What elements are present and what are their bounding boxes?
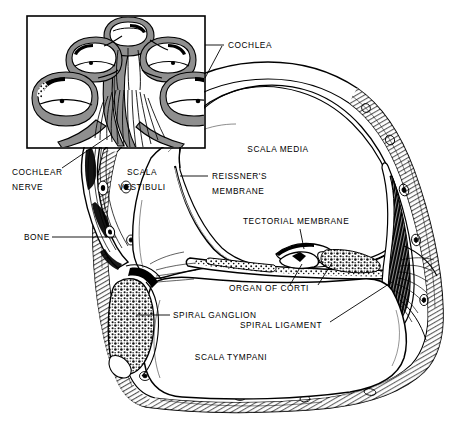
label-scala-vestibuli-line2: VESTIBULI <box>118 182 165 192</box>
label-tectorial-membrane: TECTORIAL MEMBRANE <box>243 216 349 226</box>
label-cochlea: COCHLEA <box>228 40 272 50</box>
label-scala-vestibuli-line1: SCALA <box>127 167 157 177</box>
label-organ-of-corti: ORGAN OF CORTI <box>229 283 309 293</box>
cochlea-diagram-figure: COCHLEA COCHLEAR NERVE SCALA VESTIBULI S… <box>0 0 460 426</box>
label-scala-media: SCALA MEDIA <box>247 144 308 154</box>
label-cochlear-nerve-line1: COCHLEAR <box>12 167 63 177</box>
cochlea-overview-inset <box>27 16 228 149</box>
label-reissners-membrane-line2: MEMBRANE <box>212 186 264 196</box>
label-spiral-ganglion: SPIRAL GANGLION <box>173 310 257 320</box>
label-cochlear-nerve-line2: NERVE <box>12 182 43 192</box>
label-spiral-ligament: SPIRAL LIGAMENT <box>240 320 322 330</box>
label-bone: BONE <box>24 232 50 242</box>
label-reissners-membrane-line1: REISSNER'S <box>212 171 267 181</box>
label-scala-tympani: SCALA TYMPANI <box>195 352 267 362</box>
scala-tympani-chamber <box>142 277 406 399</box>
diagram-canvas: COCHLEA COCHLEAR NERVE SCALA VESTIBULI S… <box>0 0 460 426</box>
